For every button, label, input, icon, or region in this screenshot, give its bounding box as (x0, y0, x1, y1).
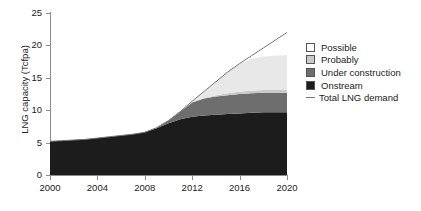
y-tick-label: 25 (0, 7, 42, 18)
legend-item-label: Onstream (321, 80, 363, 91)
legend-item-label: Under construction (321, 67, 401, 78)
x-tick-label: 2012 (172, 182, 212, 193)
x-tick-label: 2004 (77, 182, 117, 193)
x-tick-label: 2008 (125, 182, 165, 193)
chart-legend: PossibleProbablyUnder constructionOnstre… (306, 41, 401, 104)
x-tick-label: 2000 (30, 182, 70, 193)
legend-item-label: Probably (321, 54, 359, 65)
x-axis-line (50, 175, 288, 176)
x-tick (287, 176, 288, 180)
legend-swatch-icon (306, 81, 315, 90)
x-tick (50, 176, 51, 180)
x-tick (192, 176, 193, 180)
legend-item-possible[interactable]: Possible (306, 41, 401, 54)
legend-item-onstream[interactable]: Onstream (306, 79, 401, 92)
legend-item-probably[interactable]: Probably (306, 54, 401, 67)
legend-line-icon (306, 97, 315, 98)
legend-item-label: Possible (321, 42, 357, 53)
y-tick-label: 20 (0, 39, 42, 50)
legend-swatch-icon (306, 55, 315, 64)
legend-item-total-lng-demand[interactable]: Total LNG demand (306, 91, 401, 104)
stacked-area-svg (50, 13, 287, 175)
chart-figure: LNG capacity (Tcfpa) 0510152025 20002004… (0, 0, 421, 211)
legend-swatch-icon (306, 43, 315, 52)
x-tick (97, 176, 98, 180)
y-tick-label: 5 (0, 137, 42, 148)
y-tick-label: 15 (0, 72, 42, 83)
legend-item-label: Total LNG demand (319, 92, 398, 103)
plot-area (50, 13, 287, 175)
x-tick (145, 176, 146, 180)
legend-item-under-construction[interactable]: Under construction (306, 66, 401, 79)
legend-swatch-icon (306, 68, 315, 77)
y-tick-label: 0 (0, 169, 42, 180)
x-tick-label: 2020 (267, 182, 307, 193)
y-tick-label: 10 (0, 104, 42, 115)
x-tick-label: 2016 (220, 182, 260, 193)
x-tick (240, 176, 241, 180)
